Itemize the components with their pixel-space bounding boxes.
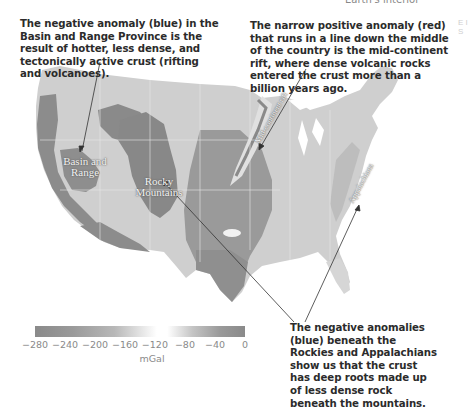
legend-unit: mGal bbox=[35, 353, 245, 364]
caption-basin-range: The negative anomaly (blue) in the Basin… bbox=[20, 18, 220, 81]
tick-label: −200 bbox=[82, 339, 108, 350]
tick-label: −80 bbox=[175, 339, 195, 350]
tick-label: −120 bbox=[142, 339, 168, 350]
legend-ticks: −280 −240 −200 −160 −120 −80 −40 0 bbox=[35, 339, 245, 353]
tick-label: −40 bbox=[205, 339, 225, 350]
tick-label: −240 bbox=[52, 339, 78, 350]
anomaly-texas bbox=[196, 250, 248, 302]
anomaly-white-patch bbox=[223, 229, 241, 237]
map-label-rocky-mountains: Rocky Mountains bbox=[128, 176, 190, 198]
tick-label: −160 bbox=[112, 339, 138, 350]
map-label-basin-range: Basin and Range bbox=[60, 156, 110, 178]
florida bbox=[326, 258, 350, 294]
caption-mountain-roots: The negative anomalies (blue) beneath th… bbox=[290, 322, 440, 410]
tick-label: −280 bbox=[22, 339, 48, 350]
legend-gradient-bar bbox=[35, 326, 245, 337]
tick-label: 0 bbox=[242, 339, 248, 350]
color-scale-legend: −280 −240 −200 −160 −120 −80 −40 0 mGal bbox=[35, 326, 245, 364]
caption-midcontinent-rift: The narrow positive anomaly (red) that r… bbox=[250, 20, 455, 96]
